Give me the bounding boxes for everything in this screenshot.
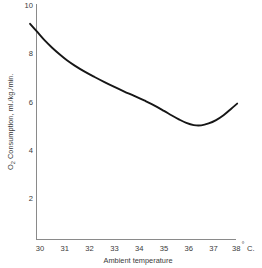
data-series-line <box>30 24 237 126</box>
x-tick-label-31: 31 <box>61 244 69 253</box>
x-tick-label-37: 37 <box>209 244 217 253</box>
y-axis-title: O2 Consumption, ml./kg./min. <box>6 74 16 170</box>
x-tick-label-33: 33 <box>110 244 118 253</box>
x-tick-label-38: 38 <box>232 244 240 253</box>
x-tick-label-35: 35 <box>160 244 168 253</box>
x-tick-label-34: 34 <box>135 244 143 253</box>
y-tick-label-2: 2 <box>29 194 33 203</box>
y-tick-label-8: 8 <box>29 49 33 58</box>
chart-canvas: 10 8 6 4 2 30 31 32 33 34 35 36 37 38 ° … <box>0 0 262 268</box>
x-axis-title: Ambient temperature <box>103 256 172 265</box>
y-tick-label-4: 4 <box>29 146 33 155</box>
y-tick-label-6: 6 <box>29 98 33 107</box>
x-tick-label-32: 32 <box>85 244 93 253</box>
x-axis-degree-symbol: ° <box>242 240 245 249</box>
y-axis-title-rest: Consumption, ml./kg./min. <box>6 74 15 162</box>
chart-figure: 10 8 6 4 2 30 31 32 33 34 35 36 37 38 ° … <box>0 0 262 268</box>
x-tick-label-36: 36 <box>185 244 193 253</box>
y-tick-label-10: 10 <box>25 1 33 10</box>
y-axis-title-group: O2 Consumption, ml./kg./min. <box>6 74 16 170</box>
x-axis-unit-label: C. <box>247 244 255 253</box>
x-tick-label-30: 30 <box>36 244 44 253</box>
